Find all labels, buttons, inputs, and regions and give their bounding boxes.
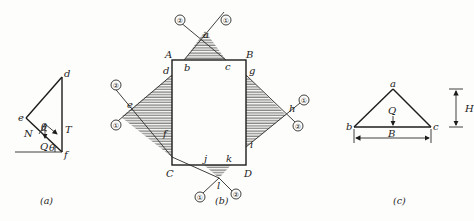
svg-text:②: ② bbox=[113, 82, 119, 90]
line-2-bottom bbox=[219, 178, 232, 191]
hatched-bottom-triangle bbox=[204, 165, 231, 178]
point-b-label: b bbox=[346, 121, 352, 132]
marker-1-right: ① bbox=[299, 95, 309, 105]
hatched-right-triangle bbox=[246, 75, 286, 147]
angle-theta-lower: θ bbox=[49, 142, 55, 153]
point-e-label: e bbox=[18, 112, 24, 123]
edge-ac bbox=[393, 89, 431, 127]
angle-theta-upper: θ bbox=[41, 121, 47, 132]
dim-h-label: H bbox=[464, 103, 474, 114]
point-k-label: k bbox=[226, 153, 232, 164]
point-g-label: g bbox=[249, 65, 255, 76]
point-c-label: c bbox=[433, 121, 439, 132]
diagram-canvas: d e f N T Q θ θ (a) ② ① ② ① ① bbox=[0, 0, 474, 221]
force-q-label: Q bbox=[40, 141, 48, 152]
caption-b: (b) bbox=[215, 195, 229, 206]
corner-a-label: A bbox=[164, 49, 172, 60]
marker-1-top: ① bbox=[221, 15, 231, 25]
svg-text:①: ① bbox=[197, 194, 203, 202]
point-h-label: h bbox=[289, 103, 295, 114]
edge-de bbox=[26, 77, 62, 118]
corner-d-label: D bbox=[243, 168, 252, 179]
point-a-label: a bbox=[203, 29, 209, 40]
svg-text:①: ① bbox=[301, 97, 307, 105]
load-q-label: Q bbox=[388, 105, 396, 116]
caption-a: (a) bbox=[40, 195, 53, 206]
point-d-label: d bbox=[163, 65, 169, 76]
point-c-label: c bbox=[225, 61, 231, 72]
rectangle-abcd bbox=[172, 60, 246, 165]
marker-2-bottom: ② bbox=[231, 189, 241, 199]
dim-b-label: B bbox=[387, 128, 395, 139]
point-e-label: e bbox=[127, 99, 133, 110]
marker-1-left: ① bbox=[111, 120, 121, 130]
corner-c-label: C bbox=[166, 168, 174, 179]
force-t-label: T bbox=[65, 124, 73, 135]
figure-b: ② ① ② ① ① ② ① ② A B C D a b c d e f g h … bbox=[111, 12, 309, 206]
point-f-label: f bbox=[63, 149, 70, 160]
caption-c: (c) bbox=[393, 195, 406, 206]
point-i-label: i bbox=[250, 139, 253, 150]
svg-text:②: ② bbox=[295, 123, 301, 131]
marker-2-left: ② bbox=[111, 80, 121, 90]
corner-b-label: B bbox=[245, 49, 253, 60]
svg-text:①: ① bbox=[113, 122, 119, 130]
svg-text:②: ② bbox=[233, 191, 239, 199]
svg-text:①: ① bbox=[223, 17, 229, 25]
marker-1-bottom: ① bbox=[195, 192, 205, 202]
marker-2-right: ② bbox=[293, 121, 303, 131]
figure-a: d e f N T Q θ θ (a) bbox=[15, 68, 73, 206]
svg-text:②: ② bbox=[177, 17, 183, 25]
point-l-label: l bbox=[217, 180, 220, 191]
marker-2-top: ② bbox=[175, 15, 185, 25]
force-n-label: N bbox=[23, 128, 34, 139]
figure-c: a b c Q B H (c) bbox=[346, 78, 474, 206]
point-j-label: j bbox=[202, 153, 207, 164]
hatched-left-triangle bbox=[121, 75, 172, 157]
point-d-label: d bbox=[64, 68, 70, 79]
point-b-label: b bbox=[184, 62, 190, 73]
point-a-label: a bbox=[390, 78, 396, 89]
